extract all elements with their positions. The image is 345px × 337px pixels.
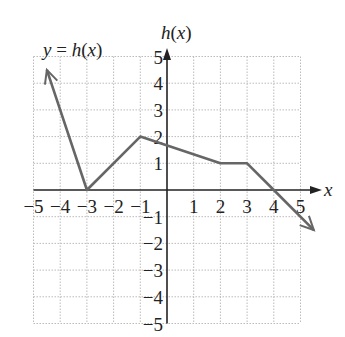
x-axis-label: x — [323, 179, 333, 200]
graph-title: y = h(x) — [41, 39, 102, 61]
x-tick-label: 4 — [269, 196, 279, 217]
y-tick-label: 3 — [154, 100, 164, 121]
y-axis-arrow-icon — [163, 48, 171, 60]
x-tick-label: −3 — [77, 196, 97, 217]
x-tick-label: −2 — [103, 196, 123, 217]
y-tick-label: −4 — [143, 287, 164, 308]
y-axis-label: h(x) — [161, 22, 192, 44]
y-tick-label: −3 — [143, 260, 163, 281]
y-tick-label: −2 — [143, 233, 163, 254]
y-tick-label: −1 — [143, 207, 163, 228]
x-tick-label: 2 — [216, 196, 226, 217]
x-axis-arrow-icon — [310, 186, 322, 194]
x-tick-label: −4 — [50, 196, 71, 217]
x-tick-label: 3 — [242, 196, 252, 217]
axes — [34, 48, 323, 324]
x-tick-label: −5 — [23, 196, 43, 217]
x-tick-label: 1 — [189, 196, 199, 217]
y-tick-label: −5 — [143, 314, 163, 335]
function-graph: −5−4−3−2−112345−5−4−3−2−112345 y = h(x) … — [0, 0, 345, 337]
y-tick-label: 1 — [154, 153, 164, 174]
y-tick-label: 5 — [154, 47, 164, 68]
y-tick-label: 4 — [154, 73, 164, 94]
